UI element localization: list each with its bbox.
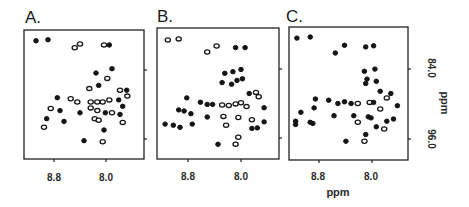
- cross-peak: [100, 140, 105, 144]
- cross-peak: [233, 45, 238, 49]
- x-tick-label-8.0: 8.0: [234, 171, 248, 182]
- cross-peak: [107, 43, 112, 47]
- x-tick-label-8.8: 8.8: [181, 171, 195, 182]
- cross-peak: [105, 76, 110, 80]
- cross-peak: [101, 43, 106, 47]
- cross-peak: [349, 101, 354, 105]
- x-tick-label-8.8: 8.8: [311, 171, 325, 182]
- cross-peak: [109, 111, 114, 115]
- cross-peak: [88, 106, 93, 110]
- cross-peak: [171, 123, 176, 127]
- y-axis-title: ppm: [439, 91, 451, 114]
- panel-b: B. 8.8 8.0: [157, 7, 282, 182]
- cross-peak: [107, 98, 112, 102]
- cross-peak: [220, 103, 225, 107]
- cross-peak: [223, 71, 228, 75]
- cross-peak: [205, 115, 210, 119]
- cross-peak: [363, 132, 368, 136]
- cross-peak: [244, 105, 249, 109]
- x-tick-label-8.0: 8.0: [99, 172, 113, 183]
- cross-peak: [374, 79, 379, 83]
- cross-peak: [336, 101, 341, 105]
- cross-peak: [214, 44, 219, 48]
- cross-peak: [311, 121, 316, 125]
- cross-peak: [78, 111, 83, 115]
- cross-peak: [373, 67, 378, 71]
- cross-peak: [371, 44, 376, 48]
- cross-peak: [41, 125, 46, 129]
- cross-peak: [210, 102, 215, 106]
- cross-peak: [239, 67, 244, 71]
- cross-peak: [94, 71, 99, 75]
- cross-peak: [256, 95, 261, 99]
- cross-peak: [95, 100, 100, 104]
- cross-peak: [389, 91, 394, 95]
- cross-peak: [378, 89, 383, 93]
- cross-peak: [77, 42, 82, 46]
- cross-peak: [118, 112, 123, 116]
- cross-peak: [82, 139, 87, 143]
- cross-peak: [342, 43, 347, 47]
- cross-peak: [363, 45, 368, 49]
- cross-peak: [362, 69, 367, 73]
- cross-peak: [385, 119, 390, 123]
- cross-peak: [176, 108, 181, 112]
- cross-peak: [68, 97, 73, 101]
- cross-peak: [221, 114, 226, 118]
- cross-peak: [100, 100, 105, 104]
- cross-peak: [295, 36, 300, 40]
- cross-peak: [262, 120, 267, 124]
- cross-peak: [308, 35, 313, 39]
- cross-peak: [247, 91, 252, 95]
- x-tick-label-8.8: 8.8: [47, 172, 61, 183]
- cross-peak: [255, 126, 260, 130]
- cross-peak: [34, 39, 39, 43]
- cross-peak: [313, 97, 318, 101]
- y-tick-label-96.0: 96.0: [426, 129, 437, 149]
- cross-peak: [362, 139, 367, 143]
- cross-peak: [46, 38, 51, 42]
- cross-peak: [75, 100, 80, 104]
- cross-peak: [233, 102, 238, 106]
- peaks-a: [34, 38, 130, 144]
- cross-peak: [249, 118, 254, 122]
- cross-peak: [236, 135, 241, 139]
- cross-peak: [229, 82, 234, 86]
- cross-peak: [117, 88, 122, 92]
- panel-label-b: B.: [157, 7, 173, 26]
- cross-peak: [88, 100, 93, 104]
- y-tick-label-84.0: 84.0: [426, 58, 437, 78]
- x-axis-title: ppm: [326, 186, 349, 198]
- cross-peak: [163, 122, 168, 126]
- cross-peak: [44, 117, 49, 121]
- cross-peak: [342, 100, 347, 104]
- cross-peak: [378, 107, 383, 111]
- cross-peak: [236, 115, 241, 119]
- panel-label-c: C.: [286, 7, 303, 26]
- cross-peak: [102, 128, 107, 132]
- cross-peak: [87, 87, 92, 91]
- panel-label-a: A.: [25, 8, 41, 27]
- cross-peak: [205, 50, 210, 54]
- cross-peak: [55, 96, 60, 100]
- cross-peak: [235, 78, 240, 82]
- cross-peak: [189, 112, 194, 116]
- cross-peak: [363, 81, 368, 85]
- cross-peak: [355, 101, 360, 105]
- cross-peak: [110, 67, 115, 71]
- cross-peak: [344, 139, 349, 143]
- cross-peak: [165, 38, 170, 42]
- cross-peak: [391, 117, 396, 121]
- cross-peak: [355, 120, 360, 124]
- cross-peak: [62, 119, 67, 123]
- cross-peak: [371, 100, 376, 104]
- cross-peak: [185, 96, 190, 100]
- panel-c: C. 8.8 8.0: [286, 7, 411, 182]
- cross-peak: [182, 109, 187, 113]
- cross-peak: [253, 90, 258, 94]
- peaks-c: [293, 35, 399, 144]
- cross-peak: [299, 110, 304, 114]
- cross-peak: [326, 98, 331, 102]
- cross-peak: [124, 88, 129, 92]
- cross-peak: [103, 111, 108, 115]
